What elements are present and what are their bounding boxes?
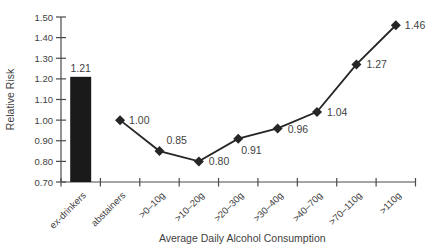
x-category-label: >20–30g bbox=[212, 190, 246, 224]
y-tick-label: 0.70 bbox=[35, 177, 54, 188]
y-tick-label: 0.90 bbox=[35, 135, 54, 146]
x-category-label: >30–40g bbox=[251, 190, 285, 224]
relative-risk-chart: 0.700.800.901.001.101.201.301.401.50ex-d… bbox=[0, 0, 436, 251]
bar-data-label: 1.21 bbox=[70, 62, 91, 74]
bar-ex-drinkers bbox=[70, 77, 91, 182]
x-category-label: >40–70g bbox=[290, 190, 324, 224]
point-data-label: 0.85 bbox=[166, 134, 187, 146]
point-data-label: 1.46 bbox=[405, 19, 426, 31]
x-category-label: >110g bbox=[377, 190, 403, 216]
risk-line bbox=[120, 25, 396, 161]
y-tick-label: 1.40 bbox=[35, 32, 54, 43]
diamond-marker bbox=[194, 156, 204, 166]
point-data-label: 1.00 bbox=[129, 114, 150, 126]
point-data-label: 1.04 bbox=[327, 106, 348, 118]
x-axis-title: Average Daily Alcohol Consumption bbox=[159, 232, 326, 244]
diamond-marker bbox=[273, 123, 283, 133]
y-tick-label: 1.20 bbox=[35, 73, 54, 84]
x-category-label: >70–110g bbox=[326, 190, 363, 227]
point-data-label: 0.91 bbox=[241, 144, 262, 156]
y-tick-label: 1.30 bbox=[35, 53, 54, 64]
y-tick-label: 0.80 bbox=[35, 156, 54, 167]
point-data-label: 1.27 bbox=[366, 58, 387, 70]
point-data-label: 0.80 bbox=[209, 155, 230, 167]
x-category-label: >0–10g bbox=[137, 190, 167, 220]
y-tick-label: 1.00 bbox=[35, 115, 54, 126]
y-tick-label: 1.10 bbox=[35, 94, 54, 105]
chart-canvas: 0.700.800.901.001.101.201.301.401.50ex-d… bbox=[0, 0, 436, 251]
point-data-label: 0.96 bbox=[288, 123, 309, 135]
x-category-label: >10–20g bbox=[172, 190, 206, 224]
y-axis-title: Relative Risk bbox=[4, 68, 16, 130]
y-tick-label: 1.50 bbox=[35, 12, 54, 23]
x-category-label: ex-drinkers bbox=[47, 189, 88, 230]
x-category-label: abstainers bbox=[89, 189, 128, 228]
diamond-marker bbox=[233, 134, 243, 144]
